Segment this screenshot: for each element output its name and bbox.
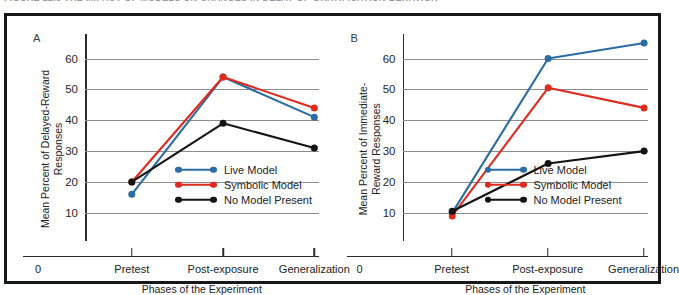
legend-swatch: [485, 164, 527, 175]
data-point: [544, 84, 551, 91]
data-point: [128, 191, 135, 198]
panel-a-letter: A: [33, 32, 40, 44]
data-point: [640, 40, 647, 47]
legend-label: Live Model: [534, 164, 587, 176]
data-point: [128, 178, 135, 185]
legend-swatch: [175, 164, 217, 175]
y-tick-label: 40: [65, 114, 78, 126]
x-axis-title: Phases of the Experiment: [142, 283, 262, 295]
legend-swatch: [485, 179, 527, 190]
legend-item: No Model Present: [485, 192, 622, 207]
x-tick-label: Generalization: [608, 263, 679, 275]
figure-caption-text: FIGURE 12.3 THE IMPACT OF MODELS ON CHAN…: [4, 0, 438, 3]
data-point: [640, 148, 647, 155]
legend-item: Live Model: [485, 162, 622, 177]
panel-b-y-axis-title: Mean Percent of Immediate-Reward Respons…: [356, 69, 381, 229]
x-tick: [643, 248, 645, 257]
legend-item: Live Model: [175, 162, 312, 177]
x-tick: [222, 248, 224, 257]
data-point: [311, 104, 318, 111]
x-axis-line: [347, 256, 649, 258]
x-tick-label: Post-exposure: [188, 263, 259, 275]
panel-a-y-axis-title: Mean Percent of Delayed-Reward Responses: [39, 69, 64, 229]
y-tick-label: 60: [383, 53, 396, 65]
y-tick-label: 50: [383, 83, 396, 95]
figure-frame: A Mean Percent of Delayed-Reward Respons…: [4, 13, 661, 284]
x-tick: [314, 248, 316, 257]
chart-panel-b: B Mean Percent of Immediate-Reward Respo…: [333, 16, 659, 281]
data-point: [448, 208, 455, 215]
y-tick-label: 30: [383, 145, 396, 157]
chart-legend: Live ModelSymbolic ModelNo Model Present: [175, 162, 312, 207]
y-tick-label: 40: [383, 114, 396, 126]
legend-item: No Model Present: [175, 192, 312, 207]
legend-label: No Model Present: [534, 194, 622, 206]
y-tick-label: 50: [65, 83, 78, 95]
legend-label: Symbolic Model: [534, 179, 612, 191]
x-tick-label: Pretest: [114, 263, 149, 275]
panel-container: A Mean Percent of Delayed-Reward Respons…: [7, 16, 658, 281]
y-tick-label: 20: [65, 176, 78, 188]
legend-swatch: [175, 179, 217, 190]
data-point: [544, 55, 551, 62]
data-point: [220, 120, 227, 127]
x-axis-line: [23, 256, 319, 258]
data-point: [220, 74, 227, 81]
chart-legend: Live ModelSymbolic ModelNo Model Present: [485, 162, 622, 207]
x-tick: [451, 248, 453, 257]
x-axis-title: Phases of the Experiment: [465, 283, 585, 295]
data-point: [640, 104, 647, 111]
legend-item: Symbolic Model: [175, 177, 312, 192]
data-point: [311, 114, 318, 121]
legend-item: Symbolic Model: [485, 177, 622, 192]
x-tick: [547, 248, 549, 257]
y-tick-label: 10: [65, 207, 78, 219]
x-axis-origin-label: 0: [357, 263, 363, 275]
y-tick-label: 20: [383, 176, 396, 188]
y-tick-label: 60: [65, 53, 78, 65]
data-point: [311, 145, 318, 152]
x-tick-label: Post-exposure: [512, 263, 583, 275]
x-axis-origin-label: 0: [35, 263, 41, 275]
x-tick-label: Pretest: [434, 263, 469, 275]
chart-panel-a: A Mean Percent of Delayed-Reward Respons…: [7, 16, 333, 281]
legend-label: Symbolic Model: [224, 179, 302, 191]
legend-swatch: [485, 194, 527, 205]
x-tick: [131, 248, 133, 257]
panel-b-letter: B: [351, 32, 358, 44]
y-tick-label: 10: [383, 207, 396, 219]
figure-caption-clipped: FIGURE 12.3 THE IMPACT OF MODELS ON CHAN…: [0, 0, 668, 9]
legend-label: Live Model: [224, 164, 277, 176]
legend-label: No Model Present: [224, 194, 312, 206]
legend-swatch: [175, 194, 217, 205]
y-tick-label: 30: [65, 145, 78, 157]
